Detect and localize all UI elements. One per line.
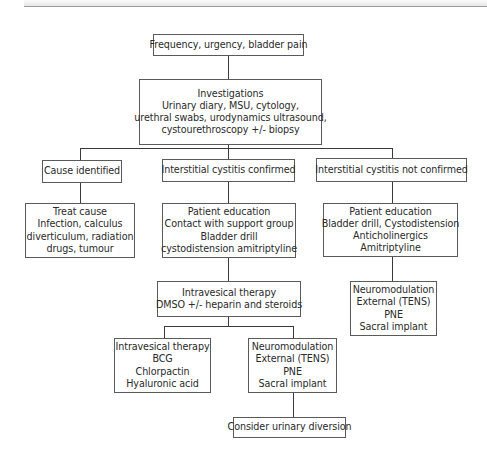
node-treat-cause-line: diverticulum, radiation <box>27 231 134 243</box>
top-rule <box>24 0 487 7</box>
connector-branch-cause <box>80 148 81 160</box>
node-intravesical-dmso-line: DMSO +/- heparin and steroids <box>156 299 302 311</box>
node-neuromodulation-line: External (TENS) <box>356 296 430 308</box>
node-patient-education-title: Patient education <box>349 206 431 218</box>
node-treat-cause-line: drugs, tumour <box>46 243 113 255</box>
node-neuromodulation-right: Neuromodulation External (TENS) PNE Sacr… <box>350 281 437 336</box>
node-intravesical-bcg: Intravesical therapy BCG Chlorpactin Hya… <box>114 338 211 393</box>
node-investigations-title: Investigations <box>198 88 264 100</box>
node-ic-not-confirmed: Interstitial cystitis not confirmed <box>316 158 467 182</box>
node-ic-confirmed: Interstitial cystitis confirmed <box>162 159 295 182</box>
node-treat-cause-line: Infection, calculus <box>38 218 123 230</box>
node-cause-identified: Cause identified <box>42 160 122 183</box>
connector-split-bcg <box>164 326 165 338</box>
node-neuromodulation-line: PNE <box>283 366 302 378</box>
connector-cause-treat <box>80 182 81 203</box>
node-neuromodulation-title: Neuromodulation <box>252 341 334 353</box>
node-patient-education-not-confirmed: Patient education Bladder drill, Cystodi… <box>323 203 458 257</box>
connector-neuro-diversion <box>293 393 294 417</box>
node-neuromodulation-line: Sacral implant <box>259 378 327 390</box>
node-cause-identified-line: Cause identified <box>44 165 120 177</box>
connector-education-neuro-right <box>392 257 393 281</box>
connector-branch-horizontal <box>80 148 393 149</box>
node-urinary-diversion: Consider urinary diversion <box>233 417 346 438</box>
node-ic-not-confirmed-line: Interstitial cystitis not confirmed <box>315 164 467 176</box>
connector-branch-ic-confirmed <box>228 148 229 159</box>
node-symptoms-line: Frequency, urgency, bladder pain <box>150 39 308 51</box>
node-patient-education-line: Bladder drill <box>201 231 258 243</box>
connector-symptoms-investigations <box>228 55 229 79</box>
node-intravesical-bcg-line: BCG <box>152 353 172 365</box>
node-symptoms: Frequency, urgency, bladder pain <box>153 34 304 56</box>
node-patient-education-title: Patient education <box>188 206 270 218</box>
connector-split-neuro-center <box>293 326 294 338</box>
node-intravesical-bcg-line: Hyaluronic acid <box>126 378 199 390</box>
node-patient-education-confirmed: Patient education Contact with support g… <box>162 203 296 258</box>
node-intravesical-bcg-title: Intravesical therapy <box>116 341 210 353</box>
node-treat-cause-title: Treat cause <box>53 206 107 218</box>
connector-dmso-split-horizontal <box>164 326 294 327</box>
node-neuromodulation-line: External (TENS) <box>255 353 329 365</box>
node-neuromodulation-title: Neuromodulation <box>353 284 435 296</box>
connector-nic-education <box>392 182 393 203</box>
node-patient-education-line: Contact with support group <box>165 218 294 230</box>
node-investigations-line: urethral swabs, urodynamics ultrasound, <box>134 112 326 124</box>
connector-ic-education <box>228 182 229 203</box>
connector-branch-ic-not-confirmed <box>392 148 393 158</box>
node-urinary-diversion-line: Consider urinary diversion <box>228 421 352 433</box>
node-neuromodulation-line: PNE <box>384 309 403 321</box>
node-neuromodulation-line: Sacral implant <box>360 321 428 333</box>
node-ic-confirmed-line: Interstitial cystitis confirmed <box>161 164 295 176</box>
node-patient-education-line: cystodistension amitriptyline <box>161 243 297 255</box>
node-intravesical-dmso: Intravesical therapy DMSO +/- heparin an… <box>157 281 301 317</box>
node-patient-education-line: Bladder drill, Cystodistension <box>322 218 459 230</box>
node-patient-education-line: Amitriptyline <box>360 242 421 254</box>
node-treat-cause: Treat cause Infection, calculus divertic… <box>25 203 135 258</box>
node-intravesical-bcg-line: Chlorpactin <box>136 366 190 378</box>
node-intravesical-dmso-title: Intravesical therapy <box>182 287 276 299</box>
node-neuromodulation-center: Neuromodulation External (TENS) PNE Sacr… <box>248 338 337 393</box>
node-investigations: Investigations Urinary diary, MSU, cytol… <box>139 79 322 145</box>
node-investigations-line: cystourethroscopy +/- biopsy <box>161 124 299 136</box>
node-patient-education-line: Anticholinergics <box>353 230 428 242</box>
connector-education-dmso <box>228 258 229 281</box>
node-investigations-line: Urinary diary, MSU, cytology, <box>162 100 299 112</box>
